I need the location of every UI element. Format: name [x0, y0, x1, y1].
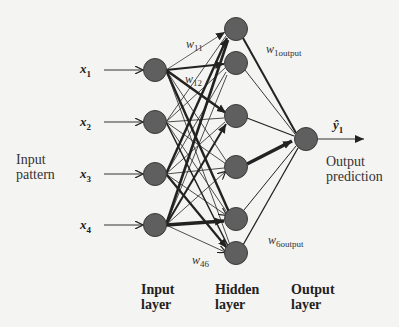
hidden-node-1 [225, 18, 248, 41]
layer-caption-input: Input layer [141, 283, 174, 312]
weight-label-w11: w11 [186, 38, 203, 54]
input-label-x3: x3 [80, 167, 91, 184]
input-node-1 [144, 59, 167, 82]
output-label-y1: ŷ1 [333, 118, 343, 135]
layer-caption-output: Output layer [291, 283, 335, 312]
input-hidden-edges [166, 32, 230, 252]
weight-label-w6output: w6output [268, 234, 304, 250]
input-pattern-caption: Input pattern [16, 153, 55, 182]
output-node-1 [295, 128, 318, 151]
weight-label-w12: w12 [185, 73, 202, 89]
hidden-layer-nodes [225, 18, 248, 265]
input-arrows [104, 70, 142, 225]
input-node-3 [144, 163, 167, 186]
input-node-4 [144, 214, 167, 237]
input-label-x1: x1 [80, 62, 91, 79]
output-layer-nodes [295, 128, 318, 151]
hidden-node-4 [225, 156, 248, 179]
hidden-node-3 [225, 105, 248, 128]
input-node-2 [144, 111, 167, 134]
input-label-x4: x4 [80, 218, 91, 235]
hidden-node-5 [225, 208, 248, 231]
hidden-output-edges [243, 38, 298, 245]
input-layer-nodes [144, 59, 167, 237]
hidden-node-2 [225, 52, 248, 75]
layer-caption-hidden: Hidden layer [215, 283, 259, 312]
weight-label-w1output: w1output [266, 43, 302, 59]
input-label-x2: x2 [80, 115, 91, 132]
hidden-node-6 [225, 242, 248, 265]
weight-label-w46: w46 [192, 254, 209, 270]
output-prediction-caption: Output prediction [326, 155, 383, 184]
